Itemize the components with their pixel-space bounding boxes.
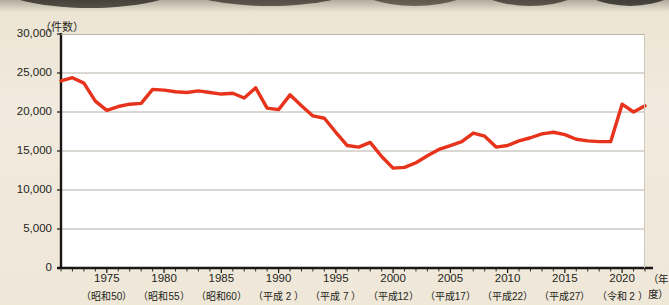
- chart-svg: [0, 0, 669, 305]
- x-axis-era-label: （平成22）: [476, 288, 540, 303]
- y-axis-tick-label: 15,000: [0, 144, 52, 156]
- x-axis-tick-label: 2010: [478, 272, 538, 284]
- y-axis-tick-label: 10,000: [0, 183, 52, 195]
- x-axis-era-label: （昭和50）: [75, 288, 139, 303]
- x-axis-tick-label: 1990: [249, 272, 309, 284]
- x-axis-tick-label: 2015: [535, 272, 595, 284]
- y-axis-tick-label: 30,000: [0, 27, 52, 39]
- x-axis-tick-label: 2020: [592, 272, 652, 284]
- line-chart: （件数） 30,00025,00020,00015,00010,0005,000…: [0, 0, 669, 305]
- y-axis-tick-label: 5,000: [0, 222, 52, 234]
- x-axis-era-label: （平成27）: [533, 288, 597, 303]
- x-axis-era-label: （昭和60）: [189, 288, 253, 303]
- x-axis-tick-label: 2005: [420, 272, 480, 284]
- x-axis-tick-label: 1985: [191, 272, 251, 284]
- x-axis-tick-label: 2000: [363, 272, 423, 284]
- x-axis-era-label: （令和 2 ）: [590, 288, 654, 303]
- y-axis-tick-label: 20,000: [0, 105, 52, 117]
- x-axis-tick-label: 1995: [306, 272, 366, 284]
- x-axis-era-label: （平成 7 ）: [304, 288, 368, 303]
- x-axis-tick-label: 1980: [134, 272, 194, 284]
- x-axis-era-label: （昭和55）: [132, 288, 196, 303]
- x-axis-tick-label: 1975: [77, 272, 137, 284]
- x-axis-era-label: （平成12）: [361, 288, 425, 303]
- y-axis-tick-label: 25,000: [0, 66, 52, 78]
- x-axis-unit-label: （年度）: [648, 271, 669, 301]
- x-axis-era-label: （平成17）: [418, 288, 482, 303]
- data-series-line: [61, 78, 645, 168]
- x-axis-era-label: （平成 2 ）: [247, 288, 311, 303]
- y-axis-tick-label: 0: [0, 261, 52, 273]
